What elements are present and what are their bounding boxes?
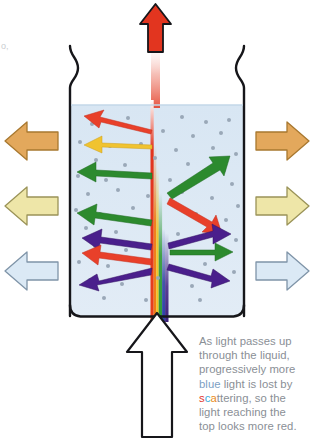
external-arrow-right-blue xyxy=(256,252,309,290)
caption-line-3: progressively more xyxy=(199,363,295,375)
caption-word-blue: blue xyxy=(199,378,221,390)
caption-line-2: through the liquid, xyxy=(199,349,290,361)
caption-line-1: As light passes up xyxy=(199,335,292,347)
external-arrow-right-yellow xyxy=(256,187,309,225)
external-arrow-right-orange xyxy=(256,122,309,160)
light-beam xyxy=(151,100,169,322)
caption-line-4-rest: light is lost by xyxy=(221,378,293,390)
external-arrow-left-yellow xyxy=(5,187,58,225)
figure-root: o, xyxy=(0,0,314,444)
external-arrow-left-blue xyxy=(5,252,58,290)
figure-caption: As light passes up through the liquid, p… xyxy=(199,334,314,433)
caption-line-5-rest: ttering, so the xyxy=(217,392,286,404)
red-light-output-arrow xyxy=(140,4,171,52)
external-arrow-left-orange xyxy=(5,122,58,160)
caption-line-7: top looks more red. xyxy=(199,420,297,432)
caption-line-6: light reaching the xyxy=(199,406,286,418)
white-light-input-arrow xyxy=(127,313,187,437)
